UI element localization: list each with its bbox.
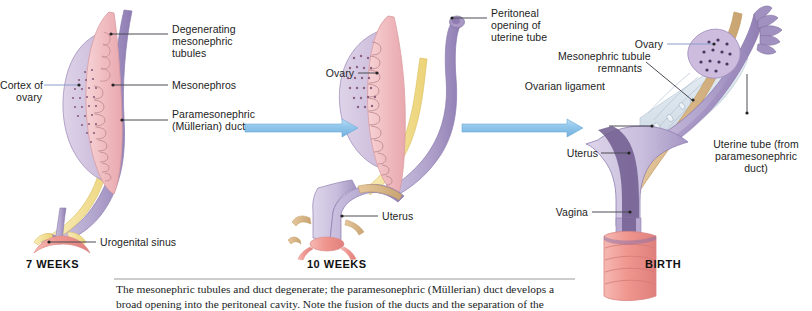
panel-10-weeks-artwork bbox=[288, 16, 465, 260]
caption-line-1: The mesonephric tubules and duct degener… bbox=[116, 282, 812, 298]
figure-canvas: Degenerating mesonephric tubules Mesonep… bbox=[0, 0, 812, 311]
label-uterine-tube-from-paramesonephric-duct: Uterine tube (from paramesonephric duct) bbox=[700, 138, 812, 174]
leader-tubule-remnants bbox=[646, 62, 692, 100]
label-paramesonephric-mullerian-duct: Paramesonephric (Müllerian) duct bbox=[172, 108, 255, 132]
label-ovarian-ligament: Ovarian ligament bbox=[521, 80, 605, 92]
arrow-7-to-10-weeks bbox=[245, 119, 358, 137]
label-degenerating-mesonephric-tubules: Degenerating mesonephric tubules bbox=[172, 23, 236, 59]
label-uterus-birth: Uterus bbox=[556, 147, 598, 159]
label-peritoneal-opening-of-uterine-tube: Peritoneal opening of uterine tube bbox=[491, 7, 547, 43]
label-cortex-of-ovary: Cortex of ovary bbox=[0, 79, 42, 103]
label-mesonephric-tubule-remnants: Mesonephric tubule remnants bbox=[558, 50, 642, 74]
label-uterus-10-weeks: Uterus bbox=[382, 210, 413, 222]
panel-7-weeks-artwork bbox=[0, 0, 812, 311]
panel-title-birth: BIRTH bbox=[645, 258, 681, 270]
label-urogenital-sinus: Urogenital sinus bbox=[100, 236, 176, 248]
panel-title-7-weeks: 7 WEEKS bbox=[26, 258, 79, 270]
panel-title-10-weeks: 10 WEEKS bbox=[307, 258, 367, 270]
caption-line-2: broad opening into the peritoneal cavity… bbox=[116, 297, 812, 311]
arrow-10-weeks-to-birth bbox=[462, 119, 583, 137]
panel1-group bbox=[34, 10, 132, 253]
label-vagina: Vagina bbox=[546, 206, 588, 218]
label-mesonephros: Mesonephros bbox=[172, 79, 236, 91]
label-ovary-10-weeks: Ovary bbox=[296, 67, 354, 79]
label-ovary-birth: Ovary bbox=[605, 38, 663, 50]
